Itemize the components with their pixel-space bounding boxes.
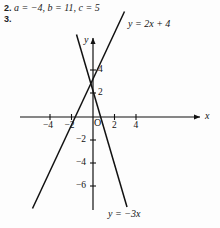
figure-page: 2. a = −4, b = 11, c = 5 3.: [0, 0, 220, 228]
x-tick-label-minus-4: −4: [43, 120, 53, 130]
y-tick-label-2: 2: [98, 87, 103, 97]
y-tick-label-minus-4: −4: [76, 157, 86, 167]
y-axis-label: y: [84, 34, 88, 45]
line-label-y-equals-minus-3x: y = −3x: [108, 208, 140, 219]
x-axis-label: x: [205, 110, 209, 121]
x-tick-label-minus-2: −2: [65, 120, 75, 130]
origin-label: O: [94, 117, 101, 128]
y-tick-label-4: 4: [98, 64, 103, 74]
x-tick-label-2: 2: [112, 120, 117, 130]
x-tick-label-4: 4: [134, 120, 139, 130]
line-label-y-equals-2x-plus-4: y = 2x + 4: [128, 18, 170, 29]
coordinate-graph: [0, 0, 220, 228]
y-tick-label-minus-2: −2: [76, 134, 86, 144]
y-tick-label-minus-6: −6: [76, 180, 86, 190]
